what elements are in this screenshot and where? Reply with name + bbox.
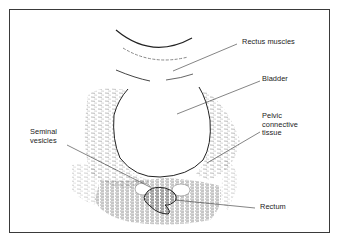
label-pelvic-connective-tissue: Pelvic connective tissue: [262, 112, 298, 138]
label-bladder: Bladder: [262, 75, 288, 84]
rectus-muscle-arcs: [116, 30, 193, 81]
label-rectus-muscles: Rectus muscles: [242, 38, 295, 47]
leader-rectus-muscles: [173, 44, 237, 71]
bladder-outline: [114, 87, 211, 177]
label-rectum: Rectum: [260, 203, 286, 212]
label-seminal-vesicles: Seminal vesicles: [30, 128, 57, 145]
